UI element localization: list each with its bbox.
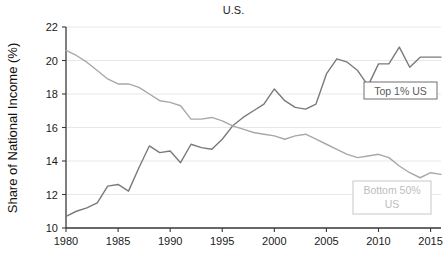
y-tick-label: 20	[46, 55, 58, 67]
y-tick-label: 16	[46, 122, 58, 134]
bottom-50-label: Bottom 50%US	[353, 181, 431, 214]
y-tick-label: 14	[46, 155, 58, 167]
x-tick-label: 2015	[418, 235, 442, 247]
chart-background	[0, 0, 448, 260]
x-tick-label: 2005	[314, 235, 338, 247]
bottom-50-label-text-line2: US	[385, 198, 400, 210]
y-tick-label: 10	[46, 222, 58, 234]
top-1-label-text: Top 1% US	[374, 85, 427, 97]
bottom-50-label-text-line1: Bottom 50%	[363, 184, 420, 196]
x-tick-label: 1985	[106, 235, 130, 247]
y-axis-title: Share of National Income (%)	[5, 43, 20, 214]
chart-container: 10121416182022 1980198519901995200020052…	[0, 0, 448, 260]
x-tick-label: 2010	[366, 235, 390, 247]
x-tick-label: 2000	[262, 235, 286, 247]
y-tick-label: 12	[46, 189, 58, 201]
y-tick-label: 22	[46, 21, 58, 33]
line-chart: 10121416182022 1980198519901995200020052…	[0, 0, 448, 260]
x-tick-label: 1980	[54, 235, 78, 247]
top-1-label: Top 1% US	[364, 82, 437, 99]
x-tick-label: 1995	[210, 235, 234, 247]
x-tick-label: 1990	[158, 235, 182, 247]
chart-title: U.S.	[223, 4, 244, 16]
y-tick-label: 18	[46, 88, 58, 100]
